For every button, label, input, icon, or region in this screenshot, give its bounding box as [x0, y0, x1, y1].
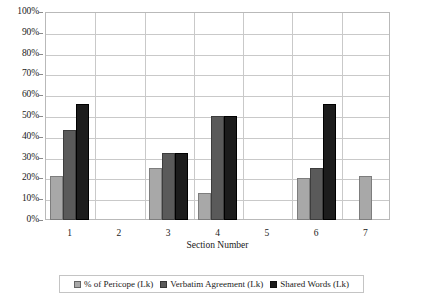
x-axis-tick-label: 4 [215, 228, 220, 238]
y-axis-tick-label: 100% [17, 7, 39, 17]
bar-group [94, 12, 143, 220]
y-axis-tick-label: 60% [22, 90, 39, 100]
x-axis-tick-label: 6 [314, 228, 319, 238]
y-axis-tick-label: 80% [22, 49, 39, 59]
y-axis-tick-mark [39, 54, 43, 55]
bar-group [193, 12, 242, 220]
legend-item[interactable]: Shared Words (Lk) [270, 279, 349, 289]
bar-group [291, 12, 340, 220]
y-axis-tick-label: 50% [22, 111, 39, 121]
bar-group [341, 12, 390, 220]
y-axis-tick-label: 10% [22, 194, 39, 204]
bar [211, 116, 224, 220]
y-axis-tick-label: 40% [22, 132, 39, 142]
y-axis-tick-label: 90% [22, 28, 39, 38]
y-axis-tick-mark [39, 199, 43, 200]
bar [297, 178, 310, 220]
chart-legend: % of Pericope (Lk)Verbatim Agreement (Lk… [59, 275, 364, 293]
bar [76, 104, 89, 220]
bar [162, 153, 175, 220]
bar [323, 104, 336, 220]
bar [149, 168, 162, 220]
legend-swatch-medium-icon [160, 281, 167, 288]
y-axis-tick-mark [39, 137, 43, 138]
x-axis-tick-label: 5 [264, 228, 269, 238]
legend-swatch-dark-icon [270, 281, 277, 288]
bar [50, 176, 63, 220]
y-axis-tick-mark [39, 33, 43, 34]
x-axis-tick-label: 7 [363, 228, 368, 238]
legend-item[interactable]: Verbatim Agreement (Lk) [160, 279, 263, 289]
bar-chart: 0%10%20%30%40%50%60%70%80%90%100% 123456… [0, 0, 421, 306]
y-axis-tick-label: 70% [22, 70, 39, 80]
y-axis-tick-mark [39, 116, 43, 117]
legend-item-label: Shared Words (Lk) [280, 279, 349, 289]
y-axis-tick-mark [39, 12, 43, 13]
bar-group [45, 12, 94, 220]
y-axis-tick-mark [39, 178, 43, 179]
bar [310, 168, 323, 220]
y-axis-tick-label: 0% [27, 215, 39, 225]
bar [175, 153, 188, 220]
y-axis-tick-mark [39, 220, 43, 221]
x-axis: 1234567 [45, 220, 390, 242]
bar-group [242, 12, 291, 220]
y-axis-tick-label: 30% [22, 153, 39, 163]
x-axis-tick-label: 3 [166, 228, 171, 238]
bars-layer [45, 12, 390, 220]
x-axis-title: Section Number [45, 240, 390, 251]
y-axis-tick-mark [39, 74, 43, 75]
legend-item[interactable]: % of Pericope (Lk) [74, 279, 153, 289]
x-axis-tick-label: 1 [67, 228, 72, 238]
y-axis-tick-mark [39, 95, 43, 96]
legend-swatch-light-icon [74, 281, 81, 288]
y-axis-tick-mark [39, 158, 43, 159]
legend-item-label: % of Pericope (Lk) [84, 279, 153, 289]
y-axis: 0%10%20%30%40%50%60%70%80%90%100% [0, 12, 43, 220]
x-axis-tick-label: 2 [117, 228, 122, 238]
legend-item-label: Verbatim Agreement (Lk) [170, 279, 263, 289]
bar-group [144, 12, 193, 220]
y-axis-tick-label: 20% [22, 174, 39, 184]
bar [224, 116, 237, 220]
bar [63, 130, 76, 220]
bar [198, 193, 211, 220]
bar [359, 176, 372, 220]
